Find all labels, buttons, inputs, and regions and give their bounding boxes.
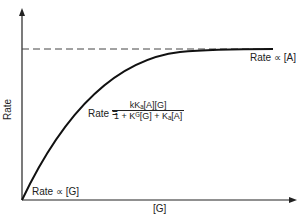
x-axis-arrow-icon — [289, 197, 297, 203]
equation-numerator: kKₐ[A][G] — [112, 100, 184, 111]
equation-denominator: 1 + Kᴳ[G] + Kₐ[A] — [112, 111, 184, 121]
y-axis-arrow-icon — [19, 8, 25, 16]
annotation-high: Rate ∝ [A] — [250, 52, 296, 63]
y-axis-label: Rate — [2, 99, 13, 120]
x-axis-label: [G] — [153, 203, 166, 214]
rate-equation: kKₐ[A][G] 1 + Kᴳ[G] + Kₐ[A] — [112, 100, 184, 121]
annotation-low: Rate ∝ [G] — [32, 186, 79, 197]
rate-curve — [22, 49, 273, 200]
